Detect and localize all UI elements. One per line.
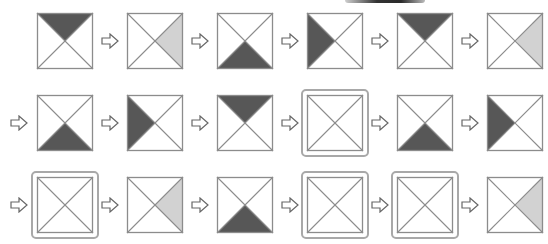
right-arrow-icon [281, 33, 299, 49]
square-tile-top-dark [217, 95, 273, 151]
right-arrow-icon [461, 33, 479, 49]
right-arrow-icon [371, 115, 389, 131]
right-arrow-icon [191, 115, 209, 131]
square-tile-bottom-dark [217, 177, 273, 233]
square-tile-empty [397, 177, 453, 233]
square-tile-empty [307, 95, 363, 151]
square-tile-right-light [127, 13, 183, 69]
square-tile-right-light [127, 177, 183, 233]
square-tile-right-light [487, 177, 543, 233]
right-arrow-icon [371, 197, 389, 213]
square-tile-left-dark [487, 95, 543, 151]
square-tile-left-dark [307, 13, 363, 69]
right-arrow-icon [10, 115, 28, 131]
right-arrow-icon [281, 115, 299, 131]
top-edge-artifact [345, 0, 425, 3]
right-arrow-icon [191, 33, 209, 49]
square-tile-right-light [487, 13, 543, 69]
square-tile-bottom-dark [217, 13, 273, 69]
right-arrow-icon [281, 197, 299, 213]
right-arrow-icon [101, 33, 119, 49]
right-arrow-icon [461, 197, 479, 213]
square-tile-empty [307, 177, 363, 233]
square-tile-bottom-dark [37, 95, 93, 151]
right-arrow-icon [371, 33, 389, 49]
square-tile-empty [37, 177, 93, 233]
right-arrow-icon [101, 197, 119, 213]
square-tile-top-dark [397, 13, 453, 69]
square-tile-bottom-dark [397, 95, 453, 151]
right-arrow-icon [461, 115, 479, 131]
right-arrow-icon [101, 115, 119, 131]
right-arrow-icon [10, 197, 28, 213]
right-arrow-icon [191, 197, 209, 213]
square-tile-top-dark [37, 13, 93, 69]
square-tile-left-dark [127, 95, 183, 151]
